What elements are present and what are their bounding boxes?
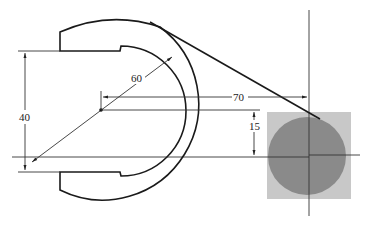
tangent-line — [150, 22, 320, 119]
dim-15-label: 15 — [249, 120, 261, 132]
shaded-circle — [268, 117, 346, 195]
dim-40-label: 40 — [19, 111, 31, 123]
dim-60-label: 60 — [131, 72, 143, 84]
dim-70-label: 70 — [233, 91, 245, 103]
drawing-canvas: 40 60 70 15 — [0, 0, 365, 227]
